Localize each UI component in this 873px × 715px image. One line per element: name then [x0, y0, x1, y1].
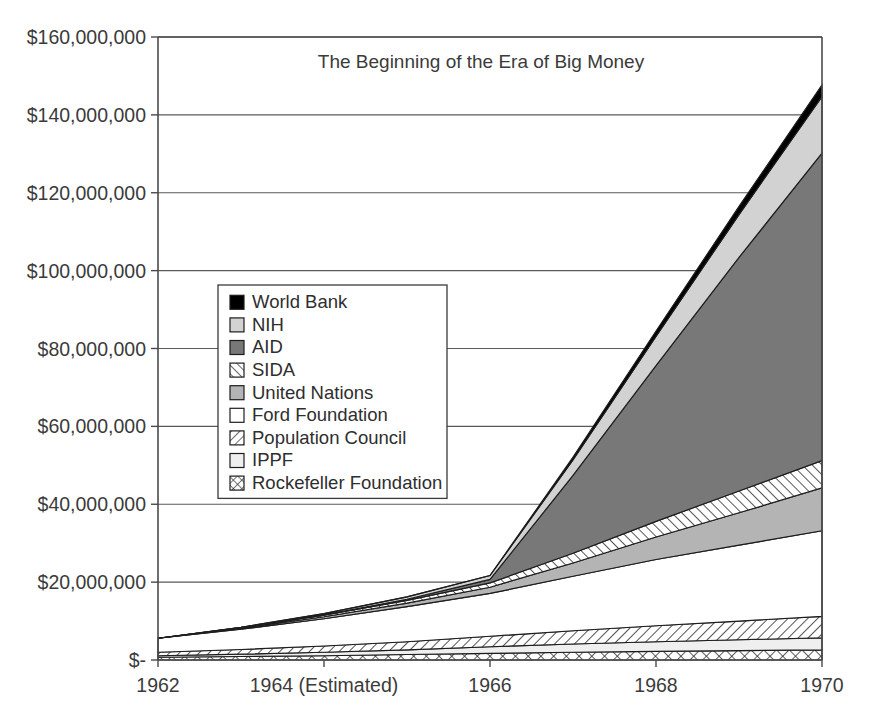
legend-swatch-sida [230, 363, 244, 377]
y-axis-tick-label: $120,000,000 [27, 182, 146, 204]
y-axis-tick-label: $80,000,000 [38, 338, 147, 360]
legend-label-sida: SIDA [252, 359, 296, 380]
legend-swatch-rockefeller-foundation [230, 476, 244, 490]
y-axis-tick-labels: $-$20,000,000$40,000,000$60,000,000$80,0… [27, 26, 146, 671]
chart-legend: World BankNIHAIDSIDAUnited NationsFord F… [218, 285, 447, 498]
y-axis-tick-label: $160,000,000 [27, 26, 146, 48]
legend-label-population-council: Population Council [252, 427, 406, 448]
legend-label-ford-foundation: Ford Foundation [252, 404, 388, 425]
legend-swatch-ippf [230, 454, 244, 468]
legend-label-rockefeller-foundation: Rockefeller Foundation [252, 472, 442, 493]
y-axis-tick-label: $40,000,000 [38, 493, 147, 515]
legend-label-united-nations: United Nations [252, 382, 373, 403]
legend-swatch-aid [230, 341, 244, 355]
x-axis-tick-label: 1964 (Estimated) [250, 674, 399, 696]
y-axis-tick-label: $60,000,000 [38, 415, 147, 437]
legend-swatch-population-council [230, 431, 244, 445]
legend-label-world-bank: World Bank [252, 291, 348, 312]
x-axis-tick-label: 1970 [800, 674, 844, 696]
x-axis-tick-label: 1966 [468, 674, 511, 696]
legend-swatch-united-nations [230, 386, 244, 400]
legend-label-aid: AID [252, 336, 283, 357]
chart-title: The Beginning of the Era of Big Money [318, 51, 645, 72]
y-axis-tick-label: $20,000,000 [38, 571, 147, 593]
x-axis-tick-label: 1962 [136, 674, 179, 696]
legend-swatch-world-bank [230, 295, 244, 309]
x-axis-tick-label: 1968 [634, 674, 677, 696]
legend-swatch-ford-foundation [230, 408, 244, 422]
legend-label-nih: NIH [252, 314, 284, 335]
legend-label-ippf: IPPF [252, 449, 293, 470]
legend-swatch-nih [230, 318, 244, 332]
y-axis-tick-label: $140,000,000 [27, 104, 146, 126]
y-axis-tick-label: $100,000,000 [27, 260, 146, 282]
chart-page: $-$20,000,000$40,000,000$60,000,000$80,0… [0, 0, 873, 715]
area-chart: $-$20,000,000$40,000,000$60,000,000$80,0… [0, 0, 873, 715]
y-axis-tick-label: $- [129, 649, 146, 671]
